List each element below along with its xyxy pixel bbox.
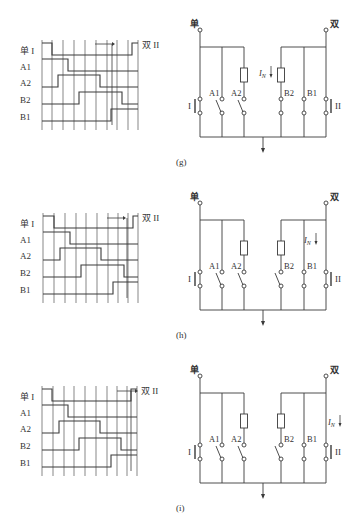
branch-label: I (188, 101, 191, 111)
signal-trace (42, 59, 138, 71)
switch-open (238, 273, 243, 285)
signal-trace (43, 282, 138, 294)
contact-top (198, 97, 202, 101)
switch-open (216, 273, 221, 285)
terminal-right (324, 201, 328, 205)
end-label: 双 II (142, 40, 159, 50)
contact-top (324, 97, 328, 101)
branch-label: B1 (307, 434, 317, 444)
terminal-right (324, 374, 328, 378)
label-single: 单 (190, 364, 199, 375)
signal-trace (42, 455, 137, 467)
fuse-icon (241, 68, 248, 82)
label-double: 双 (330, 19, 339, 29)
branch-label: II (335, 101, 341, 111)
branch-label: B1 (307, 261, 317, 271)
contact-bottom (324, 111, 328, 115)
contact-bottom (198, 284, 202, 288)
panel-caption: (i) (176, 503, 185, 513)
panel-i: 单 IA1A2B2B1双 II单双IA1A2B2B1IIIN(i) (20, 364, 342, 513)
fuse-icon (241, 241, 248, 255)
contact-top (302, 97, 306, 101)
switching-sequence-diagram: 单 IA1A2B2B1双 II单双IA1A2B2B1IIIN(g) 单 IA1A… (0, 0, 364, 529)
circuit-diagram: 单双IA1A2B2B1IIIN (188, 191, 341, 326)
arrow-head-icon (123, 216, 126, 220)
switch-open (275, 273, 280, 285)
signal-label: A1 (20, 235, 31, 245)
branch-label: A1 (209, 88, 219, 98)
signal-trace (43, 265, 138, 277)
arrow-head-icon (135, 389, 138, 393)
switch-open (238, 100, 243, 112)
signal-label: B2 (20, 95, 31, 105)
signal-label: B1 (20, 285, 31, 295)
signal-trace (42, 43, 138, 55)
signal-label: 单 I (20, 218, 34, 229)
switch-open (216, 446, 221, 458)
timing-diagram: 单 IA1A2B2B1双 II (20, 386, 158, 476)
branch-label: B2 (284, 434, 294, 444)
fuse-icon (278, 68, 285, 82)
switch-open (275, 446, 280, 458)
contact-top (242, 443, 246, 447)
signal-trace (42, 92, 138, 104)
signal-trace (42, 109, 138, 121)
current-arrow-icon (339, 423, 342, 427)
panel-g: 单 IA1A2B2B1双 II单双IA1A2B2B1IIIN(g) (20, 18, 341, 167)
contact-bottom (198, 457, 202, 461)
contact-top (279, 97, 283, 101)
panel-h: 单 IA1A2B2B1双 II单双IA1A2B2B1IIIN(h) (20, 191, 341, 340)
branch-label: B1 (307, 88, 317, 98)
contact-bottom (302, 111, 306, 115)
contact-top (324, 443, 328, 447)
signal-trace (43, 248, 138, 260)
timing-diagram: 单 IA1A2B2B1双 II (20, 213, 159, 303)
fuse-icon (278, 414, 285, 428)
timing-diagram: 单 IA1A2B2B1双 II (20, 40, 159, 130)
output-arrow-icon (261, 148, 265, 153)
contact-top (279, 443, 283, 447)
current-label: IN (303, 235, 312, 246)
output-arrow-icon (261, 494, 265, 499)
signal-label: A2 (20, 251, 31, 261)
switch-open (238, 446, 243, 458)
contact-bottom (302, 457, 306, 461)
contact-top (198, 270, 202, 274)
contact-bottom (324, 457, 328, 461)
branch-label: B2 (284, 88, 294, 98)
contact-top (302, 270, 306, 274)
contact-top (302, 443, 306, 447)
circuit-diagram: 单双IA1A2B2B1IIIN (188, 18, 341, 153)
contact-top (242, 97, 246, 101)
contact-top (324, 270, 328, 274)
signal-label: A2 (20, 424, 31, 434)
branch-label: A2 (231, 261, 241, 271)
current-arrow-icon (270, 74, 273, 78)
branch-label: A1 (209, 434, 219, 444)
contact-bottom (198, 111, 202, 115)
signal-label: B1 (20, 458, 31, 468)
label-double: 双 (330, 365, 339, 375)
label-single: 单 (190, 18, 199, 29)
panel-caption: (h) (176, 330, 187, 340)
label-double: 双 (330, 192, 339, 202)
current-label: IN (327, 417, 336, 428)
signal-label: B2 (20, 268, 31, 278)
circuit-diagram: 单双IA1A2B2B1IIIN (188, 364, 342, 499)
end-label: 双 II (142, 213, 159, 223)
signal-label: A1 (20, 62, 31, 72)
fuse-icon (241, 414, 248, 428)
panel-caption: (g) (176, 157, 187, 167)
contact-top (242, 270, 246, 274)
branch-label: I (188, 274, 191, 284)
signal-trace (42, 438, 137, 450)
contact-top (220, 97, 224, 101)
current-arrow-icon (315, 241, 318, 245)
branch-label: II (335, 447, 341, 457)
label-single: 单 (190, 191, 199, 202)
contact-bottom (302, 284, 306, 288)
contact-top (279, 270, 283, 274)
fuse-icon (278, 241, 285, 255)
output-arrow-icon (261, 321, 265, 326)
contact-bottom (279, 111, 283, 115)
